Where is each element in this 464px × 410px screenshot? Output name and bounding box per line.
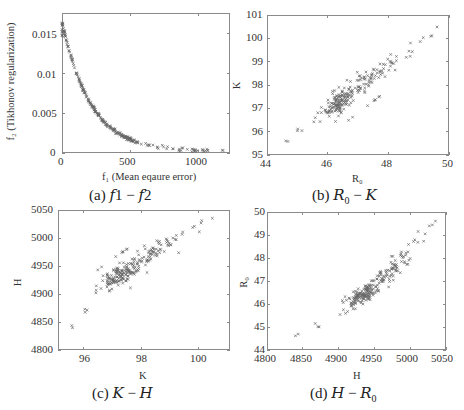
x-tick-d-4850: 4850 xyxy=(290,352,312,364)
y-tick-mark xyxy=(58,350,61,351)
y-tick-mark xyxy=(58,322,61,323)
y-tick-d-49: 49 xyxy=(254,228,265,240)
y-tick-mark xyxy=(443,350,446,351)
y-tick-d-47: 47 xyxy=(254,274,265,286)
x-axis-label-d: H xyxy=(353,370,361,381)
x-tick-mark xyxy=(302,347,303,350)
x-tick-mark xyxy=(338,212,339,215)
y-tick-mark xyxy=(446,38,449,39)
x-tick-d-5000: 5000 xyxy=(396,352,418,364)
y-tick-mark xyxy=(446,15,449,16)
x-tick-mark xyxy=(327,152,328,155)
y-tick-mark xyxy=(227,153,230,154)
y-tick-mark xyxy=(443,281,446,282)
x-tick-d-4900: 4900 xyxy=(325,352,347,364)
y-tick-mark xyxy=(227,33,230,34)
scatter-points-d xyxy=(0,0,464,410)
y-tick-mark xyxy=(267,212,270,213)
caption-d: (d) H − R0 xyxy=(310,384,377,404)
y-tick-mark xyxy=(443,212,446,213)
y-tick-mark xyxy=(267,61,270,62)
x-tick-mark xyxy=(302,212,303,215)
x-tick-d-5050: 5050 xyxy=(431,352,453,364)
y-tick-mark xyxy=(267,350,270,351)
x-tick-mark xyxy=(388,152,389,155)
x-tick-mark xyxy=(141,347,142,350)
y-tick-mark xyxy=(267,38,270,39)
y-tick-mark xyxy=(267,304,270,305)
y-tick-mark xyxy=(267,108,270,109)
x-tick-mark xyxy=(410,347,411,350)
x-tick-mark xyxy=(198,150,199,153)
y-tick-mark xyxy=(446,61,449,62)
y-tick-mark xyxy=(267,258,270,259)
x-tick-mark xyxy=(141,210,142,213)
y-tick-mark xyxy=(446,85,449,86)
x-tick-mark xyxy=(83,347,84,350)
x-tick-d-4950: 4950 xyxy=(360,352,382,364)
x-tick-mark xyxy=(388,15,389,18)
x-tick-mark xyxy=(410,212,411,215)
y-tick-mark xyxy=(267,235,270,236)
y-tick-mark xyxy=(446,131,449,132)
x-tick-mark xyxy=(374,212,375,215)
x-tick-mark xyxy=(83,210,84,213)
x-tick-mark xyxy=(62,13,63,16)
y-tick-d-48: 48 xyxy=(254,251,265,263)
y-tick-mark xyxy=(227,266,230,267)
x-tick-mark xyxy=(327,15,328,18)
y-tick-mark xyxy=(62,153,65,154)
y-tick-d-44: 44 xyxy=(254,343,265,355)
y-tick-mark xyxy=(62,33,65,34)
y-tick-mark xyxy=(443,304,446,305)
x-tick-mark xyxy=(130,13,131,16)
y-tick-mark xyxy=(62,113,65,114)
y-axis-label-d: R₀ xyxy=(238,277,249,288)
y-tick-mark xyxy=(227,113,230,114)
y-tick-mark xyxy=(58,238,61,239)
y-tick-d-50: 50 xyxy=(254,205,265,217)
y-tick-mark xyxy=(227,73,230,74)
y-tick-mark xyxy=(58,210,61,211)
x-tick-mark xyxy=(130,150,131,153)
y-tick-mark xyxy=(267,15,270,16)
y-tick-mark xyxy=(446,108,449,109)
y-tick-mark xyxy=(227,350,230,351)
x-tick-mark xyxy=(198,13,199,16)
y-tick-mark xyxy=(443,327,446,328)
y-tick-d-46: 46 xyxy=(254,297,265,309)
y-tick-mark xyxy=(443,258,446,259)
y-tick-mark xyxy=(62,73,65,74)
y-tick-mark xyxy=(446,155,449,156)
y-tick-mark xyxy=(58,294,61,295)
y-tick-mark xyxy=(267,281,270,282)
y-tick-mark xyxy=(267,155,270,156)
y-tick-mark xyxy=(267,327,270,328)
y-tick-mark xyxy=(267,131,270,132)
x-tick-mark xyxy=(198,347,199,350)
y-tick-mark xyxy=(267,85,270,86)
y-tick-mark xyxy=(227,238,230,239)
y-tick-d-45: 45 xyxy=(254,320,265,332)
y-tick-mark xyxy=(58,266,61,267)
y-tick-mark xyxy=(443,235,446,236)
x-tick-mark xyxy=(198,210,199,213)
y-tick-mark xyxy=(227,210,230,211)
y-tick-mark xyxy=(227,294,230,295)
x-tick-mark xyxy=(374,347,375,350)
x-tick-mark xyxy=(338,347,339,350)
y-tick-mark xyxy=(227,322,230,323)
